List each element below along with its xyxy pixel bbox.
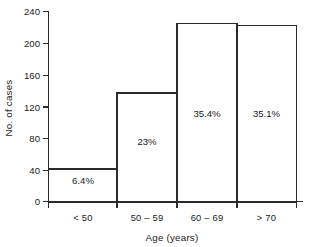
x-tick-label-over-70: > 70	[257, 212, 276, 223]
bar-label-60-69: 35.4%	[193, 108, 221, 119]
bar-50-59	[117, 93, 177, 202]
x-tick-label-under-50: < 50	[73, 212, 92, 223]
y-tick-label-120: 120	[24, 102, 40, 113]
y-tick-label-0: 0	[35, 196, 40, 207]
y-tick-label-240: 240	[24, 6, 40, 17]
bar-chart: 240 200 160 120 80 40 0 No. of cases 6.4…	[0, 0, 312, 247]
y-tick-label-80: 80	[29, 133, 40, 144]
bar-label-over-70: 35.1%	[253, 108, 281, 119]
x-tick-label-60-69: 60 – 69	[191, 212, 224, 223]
x-tick-label-50-59: 50 – 59	[131, 212, 164, 223]
y-tick-label-40: 40	[29, 165, 40, 176]
y-tick-label-200: 200	[24, 38, 40, 49]
bar-label-under-50: 6.4%	[72, 175, 94, 186]
chart-canvas: 240 200 160 120 80 40 0 No. of cases 6.4…	[0, 0, 312, 247]
y-tick-label-160: 160	[24, 70, 40, 81]
bar-label-50-59: 23%	[137, 136, 157, 147]
x-axis-title: Age (years)	[146, 232, 199, 243]
y-axis-title: No. of cases	[3, 80, 14, 137]
y-axis-ticks	[43, 12, 49, 202]
